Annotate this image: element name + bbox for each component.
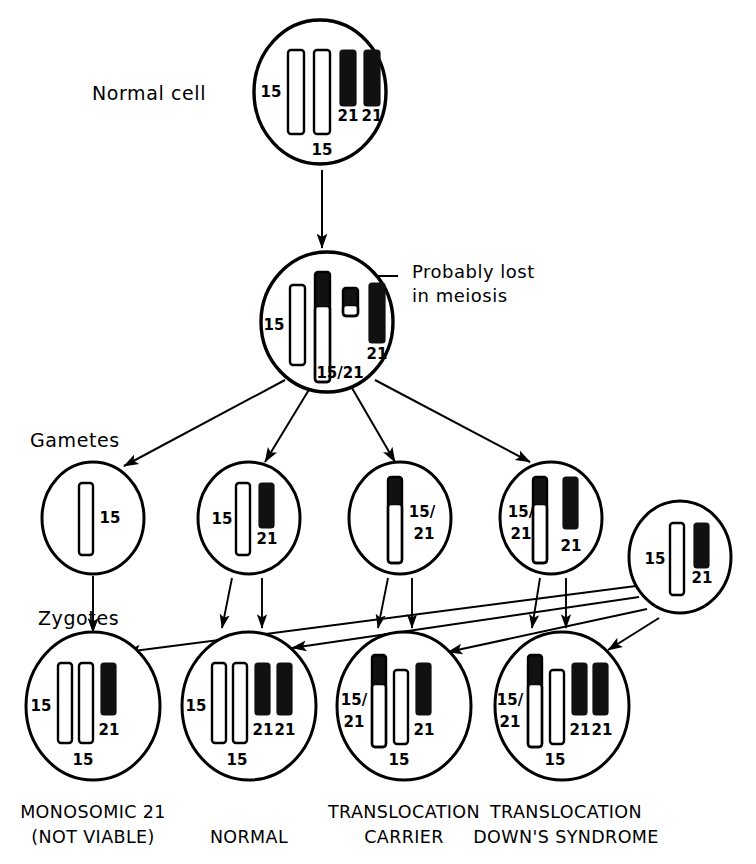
chromosome-label: 21 [362,107,383,125]
chromosome-label: 15 [31,697,52,715]
gamete-paternal-normal: 1521 [629,501,731,613]
chromosome-label: 15 [100,509,121,527]
chromosome-z4-15 [550,670,564,744]
flow-arrow [375,380,530,462]
chromosome-g5-21 [694,523,709,568]
flow-arrow [608,618,659,650]
chromosome-g5-15 [670,523,684,595]
chromosome-n21a [340,50,356,106]
chromosome-z4-1521 [528,655,542,747]
chromosome-label: 15/ [341,691,368,709]
chromosome-label: 15/ [409,503,436,521]
chromosome-n21b [364,50,380,106]
chromosome-label: 15 [212,510,233,528]
zygote-translocation-carrier: 15/211521 [337,632,471,780]
chromosome-label: 21 [344,713,365,731]
chromosome-label: 15 [73,751,94,769]
zygote-caption-line1: TRANSLOCATION [489,802,642,822]
zygote-caption-line2: (NOT VIABLE) [31,827,155,847]
chromosome-label: 21 [257,530,278,548]
zygote-caption-line2: DOWN'S SYNDROME [473,827,659,847]
chromosome-label: 21 [570,721,591,739]
zygote-caption-line1: TRANSLOCATION [327,802,480,822]
normal-cell: 15152121 [254,20,386,164]
chromosome-mfrag [343,288,358,316]
row-label-normal-cell: Normal cell [92,82,206,104]
chromosome-z3-15 [394,670,408,744]
chromosome-g3-1521 [388,477,402,563]
translocation-inheritance-diagram: 151521211515/212115152115/2115/212115211… [0,0,756,864]
chromosome-z4-21b [593,663,608,715]
flow-arrow [222,578,232,628]
cells-layer: 151521211515/212115152115/2115/212115211… [26,20,731,780]
chromosome-label: 21 [511,525,532,543]
chromosome-label: 15/21 [316,364,363,382]
chromosome-label: 15 [645,550,666,568]
chromosome-m21 [369,283,385,343]
chromosome-label: 21 [275,721,296,739]
chromosome-m15 [290,285,305,365]
chromosome-g4-1521 [533,477,547,563]
chromosome-label: 15 [186,697,207,715]
chromosome-label: 15 [261,83,282,101]
chromosome-label: 21 [367,345,388,363]
flow-arrow [378,578,388,628]
gamete-15: 15 [42,462,144,574]
meiosis-cell: 1515/2121 [261,252,393,392]
captions-layer: MONOSOMIC 21(NOT VIABLE)NORMALTRANSLOCAT… [20,802,659,847]
chromosome-label: 15 [227,751,248,769]
gamete-15-21: 1521 [198,462,300,574]
gamete-translocation: 15/21 [349,462,451,574]
zygote-caption-line1: NORMAL [210,827,288,847]
chromosome-label: 15 [545,751,566,769]
chromosome-z2-15b [233,663,247,743]
flow-arrow [265,388,310,462]
zygote-normal: 15152121 [182,632,316,780]
chromosome-label: 21 [414,525,435,543]
chromosome-g2-15 [236,483,250,555]
chromosome-z2-15a [212,663,226,743]
chromosome-z1-15a [58,663,72,743]
row-label-gametes: Gametes [30,429,120,451]
chromosome-label: 21 [99,721,120,739]
chromosome-label: 15 [264,316,285,334]
chromosome-label: 15 [312,141,333,159]
chromosome-z2-21a [255,663,270,715]
zygote-translocation-downs: 15/21152121 [495,632,629,780]
chromosome-z1-21 [101,663,116,715]
chromosome-z3-21 [416,663,431,715]
chromosome-label: 15/ [508,503,535,521]
chromosome-z3-1521 [372,655,386,747]
chromosome-label: 21 [561,537,582,555]
annotation-probably-lost-line1: Probably lost [412,261,535,282]
chromosome-label: 21 [592,721,613,739]
chromosome-g4-21 [563,477,578,529]
chromosome-g1-15 [79,483,93,555]
chromosome-z4-21a [572,663,587,715]
row-label-zygotes: Zygotes [38,607,119,629]
chromosome-z1-15b [79,663,93,743]
flow-arrow [124,380,285,466]
chromosome-n15b [314,50,330,134]
chromosome-label: 21 [338,107,359,125]
chromosome-z2-21b [277,663,292,715]
chromosome-label: 15 [389,751,410,769]
zygote-caption-line2: CARRIER [364,827,444,847]
zygote-monosomic-21: 151521 [26,632,160,780]
flow-arrow [352,388,395,462]
zygote-caption-line1: MONOSOMIC 21 [20,802,166,822]
annotation-in-meiosis-line2: in meiosis [412,285,508,306]
chromosome-label: 21 [692,569,713,587]
chromosome-label: 21 [253,721,274,739]
flow-arrow [532,578,540,628]
connector-layer [93,170,659,652]
chromosome-label: 21 [500,713,521,731]
chromosome-g2-21 [259,483,274,528]
chromosome-label: 15/ [497,691,524,709]
gamete-translocation-plus-21: 15/2121 [500,462,602,574]
diagram-canvas: 151521211515/212115152115/2115/212115211… [0,0,756,864]
chromosome-label: 21 [414,721,435,739]
chromosome-n15a [288,50,304,134]
